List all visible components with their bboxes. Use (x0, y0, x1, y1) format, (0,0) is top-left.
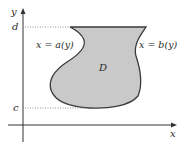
x-axis-arrow-icon (171, 123, 177, 128)
left-curve-label: x = a(y) (36, 39, 74, 50)
d-label: d (12, 21, 18, 32)
region-label: D (98, 62, 107, 73)
x-axis-label: x (170, 128, 176, 139)
right-curve-label: x = b(y) (139, 39, 178, 50)
region-diagram: y d c x D x = a(y) x = b(y) (0, 0, 186, 142)
y-axis-arrow-icon (21, 8, 26, 14)
y-axis-label: y (10, 6, 17, 17)
c-label: c (13, 102, 19, 113)
